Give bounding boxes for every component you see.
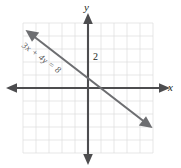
graph-canvas [0,0,181,168]
y-intercept-tick-label: 2 [93,52,98,62]
x-axis-label: x [168,82,173,93]
y-axis-label: y [84,2,89,13]
y-axis-bottom-arrowhead [83,154,93,165]
x-axis-left-arrowhead [6,83,17,93]
coordinate-plane-figure: y x 2 3x + 4y = 8 [0,0,181,168]
y-axis-top-arrowhead [83,13,93,24]
